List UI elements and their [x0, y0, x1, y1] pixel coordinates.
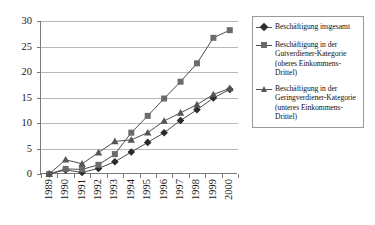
x-tick-mark: [189, 174, 190, 178]
x-tick-label: 1999: [206, 179, 219, 200]
y-tick-label: 25: [0, 42, 32, 53]
x-tick-mark: [238, 174, 239, 178]
legend-marker-triangle-icon: [256, 84, 272, 95]
data-point-square: [227, 27, 233, 33]
legend-marker-square-icon: [256, 40, 272, 51]
data-point-triangle: [160, 117, 167, 124]
data-point-square: [112, 151, 118, 157]
x-tick-label: 1992: [91, 179, 104, 200]
x-tick-label: 1997: [173, 179, 186, 200]
data-point-triangle: [226, 85, 233, 92]
data-point-square: [194, 60, 200, 66]
data-point-diamond: [111, 158, 119, 166]
x-tick-label: 1996: [157, 179, 170, 200]
data-point-square: [210, 35, 216, 41]
y-tick-label: 15: [0, 93, 32, 104]
x-tick-mark: [90, 174, 91, 178]
x-tick-label: 1998: [189, 179, 202, 200]
legend-marker-shape: [261, 42, 267, 48]
x-tick-mark: [172, 174, 173, 178]
legend-entry-square[interactable]: Beschäftigung in der Gutverdiener-Katego…: [256, 40, 359, 77]
data-point-diamond: [144, 139, 152, 147]
x-tick-mark: [41, 174, 42, 178]
x-tick-label: 1989: [42, 179, 55, 200]
x-tick-label: 1995: [140, 179, 153, 200]
data-point-square: [161, 96, 167, 102]
x-tick-label: 1990: [58, 179, 71, 200]
data-point-triangle: [177, 109, 184, 116]
legend-marker-diamond-icon: [256, 22, 272, 33]
data-point-triangle: [144, 129, 151, 136]
data-point-triangle: [95, 149, 102, 156]
data-point-square: [79, 166, 85, 172]
legend-entry-triangle[interactable]: Beschäftigung in der Geringverdiener-Kat…: [256, 84, 359, 121]
x-tick-mark: [156, 174, 157, 178]
data-point-square: [178, 79, 184, 85]
legend-label: Beschäftigung in der Gutverdiener-Katego…: [275, 40, 359, 77]
series-path: [49, 88, 230, 174]
y-tick-label: 30: [0, 16, 32, 27]
data-point-triangle: [62, 156, 69, 163]
data-point-triangle: [128, 136, 135, 143]
data-point-triangle: [193, 101, 200, 108]
y-tick-label: 10: [0, 118, 32, 129]
legend-entry-diamond[interactable]: Beschäftigung insgesamt: [256, 22, 359, 33]
x-tick-mark: [222, 174, 223, 178]
chart-container: 051015202530 198919901991199219931994199…: [0, 0, 375, 225]
data-point-diamond: [160, 129, 168, 137]
x-tick-mark: [107, 174, 108, 178]
data-point-square: [145, 113, 151, 119]
y-tick-label: 5: [0, 144, 32, 155]
legend-label: Beschäftigung in der Geringverdiener-Kat…: [275, 84, 359, 121]
legend-marker-shape: [260, 23, 268, 31]
x-tick-label: 1993: [107, 179, 120, 200]
data-point-square: [95, 162, 101, 168]
plot-area: [40, 21, 237, 174]
x-tick-mark: [74, 174, 75, 178]
x-tick-label: 1991: [75, 179, 88, 200]
x-tick-label: 2000: [222, 179, 235, 200]
series-path: [49, 89, 230, 174]
series-layer: [41, 21, 238, 174]
y-tick-label: 20: [0, 67, 32, 78]
data-point-diamond: [127, 148, 135, 156]
data-point-diamond: [177, 117, 185, 125]
data-point-square: [128, 130, 134, 136]
legend-marker-shape: [261, 86, 267, 92]
x-tick-mark: [205, 174, 206, 178]
y-tick-label: 0: [0, 169, 32, 180]
chart-legend: Beschäftigung insgesamtBeschäftigung in …: [252, 16, 364, 128]
series-line: [46, 27, 233, 177]
x-tick-mark: [123, 174, 124, 178]
data-point-square: [63, 166, 69, 172]
x-tick-label: 1994: [124, 179, 137, 200]
x-tick-mark: [57, 174, 58, 178]
x-tick-mark: [140, 174, 141, 178]
legend-label: Beschäftigung insgesamt: [275, 22, 350, 31]
series-path: [49, 30, 230, 174]
series-line: [46, 85, 234, 177]
